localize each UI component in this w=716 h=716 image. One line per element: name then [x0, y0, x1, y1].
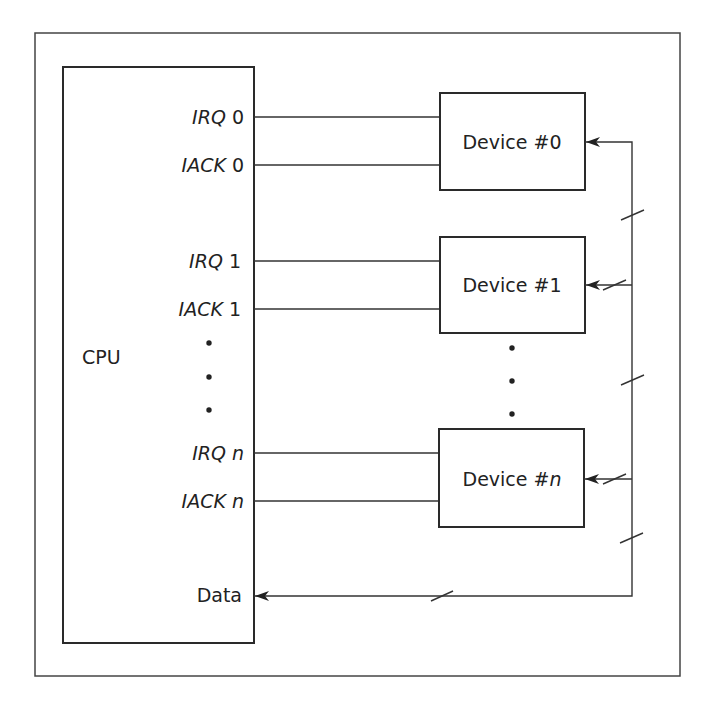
- device-0-label: Device #0: [462, 131, 561, 153]
- interrupt-diagram: CPU IRQ 0 IACK 0 IRQ 1 IACK 1 IRQ n IACK…: [0, 0, 716, 716]
- signal-lines: [254, 117, 440, 501]
- device-1-label: Device #1: [462, 274, 561, 296]
- signal-iack-n: IACK n: [182, 490, 244, 512]
- device-ellipsis: [509, 345, 514, 416]
- signal-iack-1: IACK 1: [179, 298, 241, 320]
- signal-irq-0: IRQ 0: [192, 106, 244, 128]
- signal-iack-0: IACK 0: [182, 154, 244, 176]
- device-n-label: Device #n: [463, 468, 562, 490]
- signal-irq-1: IRQ 1: [189, 250, 241, 272]
- signal-irq-n: IRQ n: [192, 442, 244, 464]
- cpu-label: CPU: [82, 346, 121, 368]
- signal-data: Data: [197, 584, 242, 606]
- arrowheads: [255, 137, 600, 601]
